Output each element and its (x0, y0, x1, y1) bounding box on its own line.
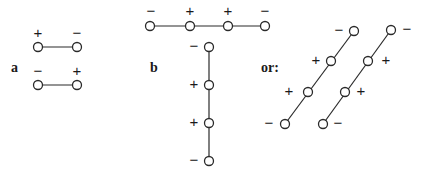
minus-charge-sign: − (265, 114, 274, 131)
atom-node (205, 81, 214, 90)
panel-label-or: or: (261, 60, 279, 75)
plus-charge-sign: + (34, 24, 43, 41)
panel-label-a: a (11, 60, 18, 75)
atom-node (224, 22, 233, 31)
minus-charge-sign: − (34, 62, 43, 79)
minus-charge-sign: − (335, 21, 344, 38)
plus-charge-sign: + (285, 82, 294, 99)
atom-node (364, 57, 373, 66)
bond-line (285, 31, 354, 124)
atom-node (387, 26, 396, 35)
plus-charge-sign: + (73, 62, 82, 79)
minus-charge-sign: − (403, 20, 412, 37)
atom-node (146, 22, 155, 31)
minus-charge-sign: − (190, 151, 199, 168)
atom-node (205, 43, 214, 52)
panel-label-b: b (150, 60, 158, 75)
atom-node (341, 88, 350, 97)
plus-charge-sign: + (190, 113, 199, 130)
atom-node (73, 43, 82, 52)
bond-line (323, 30, 391, 124)
atom-node (34, 43, 43, 52)
plus-charge-sign: + (357, 82, 366, 99)
atom-node (281, 120, 290, 129)
minus-charge-sign: − (190, 37, 199, 54)
atom-node (73, 81, 82, 90)
atom-node (186, 22, 195, 31)
plus-charge-sign: + (186, 2, 195, 19)
plus-charge-sign: + (312, 51, 321, 68)
minus-charge-sign: − (261, 2, 270, 19)
plus-charge-sign: + (382, 51, 391, 68)
atom-node (304, 88, 313, 97)
minus-charge-sign: − (334, 114, 343, 131)
atom-node (327, 57, 336, 66)
atom-node (205, 119, 214, 128)
atom-node (205, 157, 214, 166)
minus-charge-sign: − (147, 2, 156, 19)
charge-chain-diagram: +−−+−++−−++−−++−−++− a b or: (0, 0, 423, 174)
plus-charge-sign: + (190, 75, 199, 92)
atom-node (34, 81, 43, 90)
plus-charge-sign: + (224, 2, 233, 19)
atom-node (350, 27, 359, 36)
atom-node (261, 22, 270, 31)
atom-node (319, 120, 328, 129)
minus-charge-sign: − (73, 24, 82, 41)
